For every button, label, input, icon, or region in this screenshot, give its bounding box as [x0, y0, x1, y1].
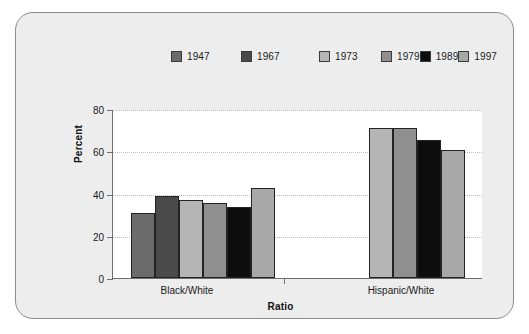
bar-1997-black-white [251, 188, 275, 278]
legend-item-1973: 1973 [319, 47, 381, 65]
legend-swatch-1947 [171, 51, 182, 62]
bar-1979-hispanic-white [393, 128, 417, 278]
legend-swatch-1997 [458, 51, 469, 62]
plot-area: 020406080 [112, 110, 482, 279]
legend-swatch-1989 [420, 51, 431, 62]
bar-1967-black-white [155, 196, 179, 278]
chart-legend: 1947 1967 1973 1979 1989 1997 [171, 47, 381, 65]
bar-1947-black-white [131, 213, 155, 278]
x-axis-group-label: Black/White [127, 285, 247, 296]
legend-item-1967: 1967 [241, 47, 319, 65]
legend-swatch-1967 [241, 51, 252, 62]
y-axis-title: Percent [73, 125, 84, 163]
bar-1989-hispanic-white [417, 140, 441, 278]
legend-label-1997: 1997 [474, 51, 497, 62]
bar-1997-hispanic-white [441, 150, 465, 278]
legend-swatch-1979 [381, 51, 392, 62]
bar-1973-hispanic-white [369, 128, 393, 278]
legend-label-1967: 1967 [257, 51, 280, 62]
legend-label-1973: 1973 [335, 51, 358, 62]
legend-label-1947: 1947 [187, 51, 210, 62]
legend-item-1947: 1947 [171, 47, 241, 65]
x-axis-title: Ratio [16, 301, 529, 312]
legend-label-1989: 1989 [436, 51, 459, 62]
bar-1979-black-white [203, 203, 227, 278]
legend-item-1989: 1989 [420, 47, 459, 65]
y-axis-tick-mark [107, 279, 113, 280]
chart-card: 1947 1967 1973 1979 1989 1997 Percent 02… [15, 12, 514, 319]
bar-series-container [113, 110, 482, 278]
x-axis-group-separator-tick [284, 279, 285, 284]
bar-1989-black-white [227, 207, 251, 278]
legend-swatch-1973 [319, 51, 330, 62]
bar-1973-black-white [179, 200, 203, 278]
x-axis-group-label: Hispanic/White [341, 285, 461, 296]
legend-item-1979: 1979 [381, 47, 420, 65]
legend-item-1997: 1997 [458, 47, 497, 65]
legend-label-1979: 1979 [397, 51, 420, 62]
